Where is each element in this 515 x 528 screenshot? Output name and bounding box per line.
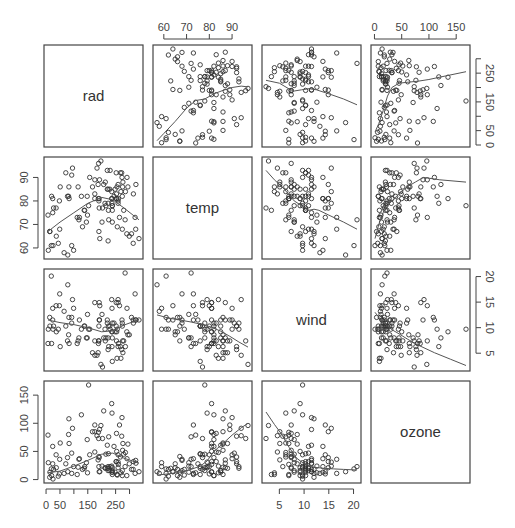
svg-text:60: 60 [158,21,170,33]
svg-text:10: 10 [298,499,310,511]
svg-text:60: 60 [18,242,30,254]
diagonal-label: rad [83,87,105,104]
panel-rad-vs-rad: rad [44,45,143,147]
svg-text:150: 150 [18,386,30,404]
svg-text:100: 100 [420,21,438,33]
svg-text:150: 150 [79,499,97,511]
pairs-plot: radtempwindozone050150250607080905101520… [0,0,515,528]
svg-text:20: 20 [484,270,496,282]
svg-text:50: 50 [484,125,496,137]
svg-text:5: 5 [276,499,282,511]
panel-rad-vs-ozone [371,45,470,147]
axis-temp-left: 60708090 [18,171,38,254]
svg-text:150: 150 [484,93,496,111]
panel-wind-vs-ozone [371,269,470,371]
svg-text:50: 50 [396,21,408,33]
svg-text:100: 100 [18,414,30,432]
panel-ozone-vs-ozone: ozone [371,381,470,483]
axis-wind-right: 5101520 [476,270,496,356]
svg-text:70: 70 [180,21,192,33]
svg-text:70: 70 [18,218,30,230]
panel-rad-vs-wind [262,45,361,147]
svg-text:0: 0 [484,142,496,148]
svg-text:15: 15 [323,499,335,511]
svg-text:80: 80 [203,21,215,33]
diagonal-label: wind [295,311,327,328]
panel-wind-vs-rad [44,269,143,371]
svg-text:10: 10 [484,322,496,334]
panel-ozone-vs-temp [153,381,252,483]
panel-wind-vs-wind: wind [262,269,361,371]
svg-text:20: 20 [347,499,359,511]
panel-temp-vs-temp: temp [153,157,252,259]
svg-text:80: 80 [18,195,30,207]
panel-temp-vs-ozone [371,157,470,259]
panel-rad-vs-temp [153,45,252,147]
svg-text:0: 0 [43,499,49,511]
svg-text:0: 0 [18,477,30,483]
diagonal-label: temp [186,199,219,216]
svg-text:50: 50 [54,499,66,511]
svg-text:250: 250 [484,64,496,82]
axis-wind-bottom: 5101520 [276,489,359,511]
svg-text:250: 250 [106,499,124,511]
axis-rad-bottom: 050150250 [43,489,130,511]
svg-text:5: 5 [484,350,496,356]
svg-text:15: 15 [484,296,496,308]
svg-text:50: 50 [18,445,30,457]
axis-rad-right: 050150250 [476,59,496,148]
diagonal-label: ozone [400,423,441,440]
axis-temp-top: 60708090 [158,21,239,39]
panel-temp-vs-wind [262,157,361,259]
svg-text:90: 90 [18,171,30,183]
panel-ozone-vs-wind [262,381,361,483]
svg-text:0: 0 [371,21,377,33]
axis-ozone-top: 050100150 [371,21,465,39]
panel-temp-vs-rad [44,157,143,259]
svg-text:150: 150 [447,21,465,33]
axis-ozone-left: 050100150 [18,386,38,483]
svg-text:90: 90 [226,21,238,33]
panel-wind-vs-temp [153,269,252,371]
panel-ozone-vs-rad [44,381,143,483]
